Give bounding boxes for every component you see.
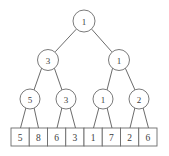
edge-l2n2-to-leaf5 <box>107 108 112 129</box>
edge-l1n0-to-l2n0 <box>34 69 42 91</box>
edge-l2n2-to-leaf4 <box>94 108 100 129</box>
leaf-label-6: 2 <box>127 133 132 143</box>
node-level1-left[interactable]: 3 <box>38 50 59 71</box>
node-level2-0[interactable]: 5 <box>20 89 40 109</box>
leaf-label-3: 3 <box>73 133 78 143</box>
node-label-level1-right: 1 <box>117 56 122 66</box>
edge-group-leaves <box>21 108 149 129</box>
node-label-level2-3: 2 <box>137 95 142 105</box>
edge-root-to-left <box>56 30 77 52</box>
node-level2-3[interactable]: 2 <box>129 89 149 109</box>
edge-l2n1-to-leaf3 <box>70 108 76 129</box>
node-level2-1[interactable]: 3 <box>56 89 76 109</box>
edge-l1n1-to-l2n3 <box>126 69 136 91</box>
edge-l1n0-to-l2n1 <box>55 69 63 91</box>
node-label-level2-0: 5 <box>28 95 33 105</box>
edge-l2n3-to-leaf6 <box>130 108 135 129</box>
node-label-level2-1: 3 <box>64 95 69 105</box>
edge-l2n0-to-leaf0 <box>21 108 27 129</box>
node-label-level1-left: 3 <box>46 56 51 66</box>
edge-l2n3-to-leaf7 <box>143 108 149 129</box>
leaf-label-5: 7 <box>109 133 114 143</box>
node-label-root: 1 <box>82 17 87 27</box>
edge-l2n0-to-leaf1 <box>34 108 39 129</box>
leaf-label-1: 8 <box>36 133 41 143</box>
leaf-label-0: 5 <box>18 133 23 143</box>
edge-root-to-right <box>92 30 112 52</box>
leaf-label-4: 1 <box>91 133 96 143</box>
node-label-level2-2: 1 <box>101 95 106 105</box>
leaf-label-7: 6 <box>146 133 151 143</box>
edge-group-root <box>56 30 112 52</box>
node-level1-right[interactable]: 1 <box>109 50 130 71</box>
leaf-label-2: 6 <box>54 133 59 143</box>
leaf-row: 5 8 6 3 1 7 2 6 <box>11 128 157 146</box>
edge-group-level1 <box>34 69 135 91</box>
edge-l1n1-to-l2n2 <box>107 69 113 91</box>
node-root[interactable]: 1 <box>73 10 95 32</box>
node-level2-2[interactable]: 1 <box>93 89 113 109</box>
tree-canvas: 1 3 1 5 3 1 2 5 8 <box>0 0 169 156</box>
binary-tree-diagram: 1 3 1 5 3 1 2 5 8 <box>0 0 169 156</box>
edge-l2n1-to-leaf2 <box>57 108 62 129</box>
